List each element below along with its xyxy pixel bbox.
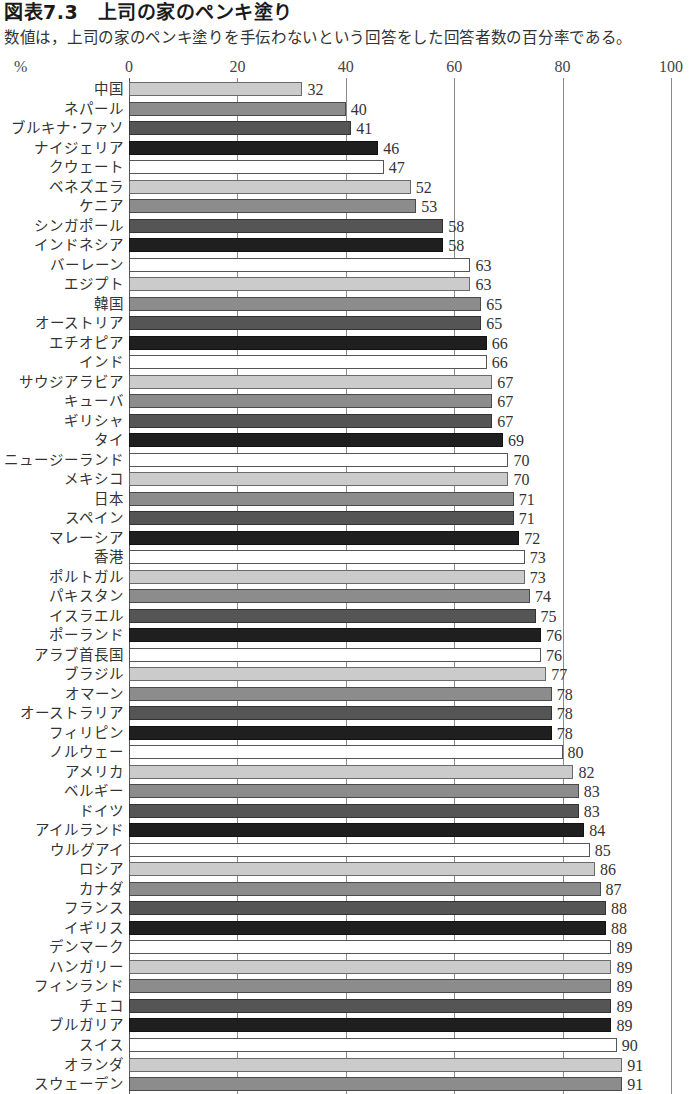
bar — [129, 316, 481, 330]
bar — [129, 531, 519, 545]
bar — [129, 277, 470, 291]
value-label: 63 — [475, 256, 491, 276]
value-label: 78 — [557, 724, 573, 744]
bar — [129, 999, 611, 1013]
category-label: ハンガリー — [49, 957, 124, 977]
value-label: 65 — [486, 295, 502, 315]
bar — [129, 921, 606, 935]
category-label: スウェーデン — [34, 1074, 124, 1094]
x-tick-label: 100 — [659, 58, 683, 76]
bar — [129, 375, 492, 389]
category-label: 中国 — [94, 79, 124, 99]
chart-title: 図表7.3 上司の家のペンキ塗り — [4, 0, 293, 24]
value-label: 53 — [421, 197, 437, 217]
bar — [129, 589, 530, 603]
bar — [129, 960, 611, 974]
value-label: 91 — [627, 1075, 643, 1094]
bar — [129, 726, 552, 740]
category-label: スペイン — [65, 508, 124, 528]
value-label: 72 — [524, 529, 540, 549]
bar — [129, 745, 563, 759]
category-label: メキシコ — [64, 469, 124, 489]
axis-unit-label: % — [14, 58, 27, 76]
value-label: 78 — [557, 704, 573, 724]
category-label: イギリス — [64, 918, 124, 938]
category-label: デンマーク — [49, 937, 124, 957]
bar — [129, 648, 541, 662]
value-label: 58 — [448, 236, 464, 256]
category-label: インドネシア — [34, 235, 124, 255]
category-label: サウジアラビア — [19, 372, 124, 392]
bar — [129, 1018, 611, 1032]
category-label: オマーン — [65, 684, 124, 704]
category-label: 香港 — [94, 547, 124, 567]
bar — [129, 550, 525, 564]
bar — [129, 940, 611, 954]
bar — [129, 238, 443, 252]
category-label: フィンランド — [34, 976, 124, 996]
bar — [129, 1038, 617, 1052]
value-label: 41 — [356, 119, 372, 139]
value-label: 84 — [589, 821, 605, 841]
bar — [129, 843, 590, 857]
bar — [129, 160, 384, 174]
category-label: ケニア — [79, 196, 124, 216]
bar — [129, 258, 470, 272]
value-label: 77 — [551, 665, 567, 685]
category-label: ニュージーランド — [4, 450, 124, 470]
value-label: 89 — [616, 1016, 632, 1036]
category-label: ナイジェリア — [34, 138, 124, 158]
category-label: オーストリア — [35, 313, 124, 333]
bar — [129, 804, 579, 818]
bar — [129, 394, 492, 408]
bar — [129, 219, 443, 233]
value-label: 80 — [568, 743, 584, 763]
x-tick-label: 80 — [555, 58, 571, 76]
bar — [129, 336, 487, 350]
value-label: 85 — [595, 841, 611, 861]
category-label: アメリカ — [65, 762, 124, 782]
category-label: ノルウェー — [49, 742, 124, 762]
value-label: 83 — [584, 782, 600, 802]
value-label: 78 — [557, 685, 573, 705]
bar — [129, 706, 552, 720]
bar — [129, 492, 514, 506]
bar — [129, 570, 525, 584]
value-label: 71 — [519, 490, 535, 510]
category-label: アラブ首長国 — [34, 645, 124, 665]
category-label: インド — [79, 352, 124, 372]
bar — [129, 1058, 622, 1072]
value-label: 67 — [497, 373, 513, 393]
category-label: ベネズエラ — [49, 177, 124, 197]
bar — [129, 882, 601, 896]
value-label: 88 — [611, 899, 627, 919]
category-label: カナダ — [79, 879, 124, 899]
value-label: 67 — [497, 392, 513, 412]
bar — [129, 141, 378, 155]
value-label: 76 — [546, 626, 562, 646]
value-label: 46 — [383, 139, 399, 159]
category-label: ドイツ — [79, 801, 124, 821]
bar — [129, 121, 351, 135]
category-label: ネパール — [64, 99, 124, 119]
bar — [129, 297, 481, 311]
x-tick-label: 20 — [229, 58, 245, 76]
value-label: 87 — [606, 880, 622, 900]
bar — [129, 1077, 622, 1091]
bar — [129, 102, 346, 116]
category-label: ポルトガル — [49, 567, 124, 587]
bar — [129, 784, 579, 798]
value-label: 76 — [546, 646, 562, 666]
value-label: 74 — [535, 587, 551, 607]
category-label: チェコ — [79, 996, 124, 1016]
value-label: 91 — [627, 1056, 643, 1076]
bar — [129, 199, 416, 213]
category-label: オランダ — [64, 1055, 124, 1075]
category-label: クウェート — [49, 157, 124, 177]
value-label: 66 — [492, 353, 508, 373]
bar — [129, 765, 573, 779]
bar — [129, 609, 536, 623]
category-label: ベルギー — [64, 781, 124, 801]
value-label: 63 — [475, 275, 491, 295]
category-label: 日本 — [94, 489, 124, 509]
